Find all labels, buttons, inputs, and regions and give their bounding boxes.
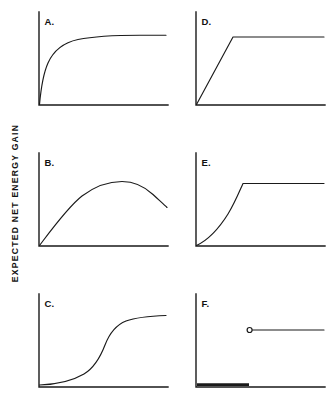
panel-c-curve [40, 316, 167, 386]
panel-e-axes [196, 153, 325, 246]
panel-d-axes [196, 12, 325, 105]
panel-c: C. [39, 294, 168, 387]
panel-a-label: A. [45, 16, 55, 27]
panel-e-curve [197, 184, 325, 246]
panel-c-axes [39, 294, 168, 387]
panel-c-label: C. [45, 298, 55, 309]
panel-d-curve [197, 37, 325, 105]
panel-b-axes [39, 153, 168, 246]
panel-e-label: E. [202, 157, 211, 168]
panel-d-label: D. [202, 16, 212, 27]
panel-f: F. [196, 294, 325, 387]
figure-root: A. D. B. E. C. [0, 0, 331, 411]
panel-f-axes [196, 294, 325, 387]
panel-d: D. [196, 12, 325, 105]
panel-f-open-circle [247, 328, 252, 333]
panel-a-axes [39, 12, 168, 105]
panels-svg: A. D. B. E. C. [0, 0, 331, 411]
panel-e: E. [196, 153, 325, 246]
panel-a-curve [40, 35, 167, 104]
panel-b: B. [39, 153, 168, 246]
panel-b-curve [40, 182, 168, 246]
panel-f-label: F. [202, 298, 210, 309]
panel-a: A. [39, 12, 168, 105]
panel-b-label: B. [45, 157, 55, 168]
